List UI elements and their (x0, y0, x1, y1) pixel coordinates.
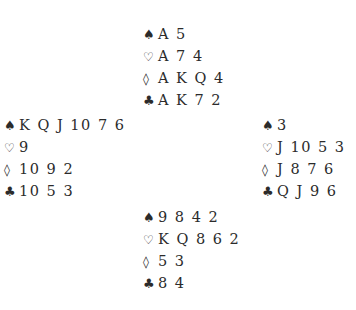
club-icon: ♣ (143, 273, 157, 295)
south-spades: ♠9 8 4 2 (143, 206, 240, 228)
north-clubs: ♣A K 7 2 (143, 89, 225, 111)
south-hearts-cards: K Q 8 6 2 (158, 231, 240, 247)
heart-icon: ♡ (4, 137, 18, 159)
east-hearts: ♡J 10 5 3 (262, 136, 346, 158)
heart-icon: ♡ (143, 229, 157, 251)
east-clubs-cards: Q J 9 6 (277, 183, 337, 199)
west-spades: ♠K Q J 10 7 6 (4, 114, 125, 136)
spade-icon: ♠ (4, 115, 18, 137)
east-spades: ♠3 (262, 114, 346, 136)
east-diamonds: ◊J 8 7 6 (262, 158, 346, 180)
diamond-icon: ◊ (4, 159, 18, 181)
diamond-icon: ◊ (143, 251, 157, 273)
south-diamonds: ◊5 3 (143, 250, 240, 272)
diamond-icon: ◊ (262, 159, 276, 181)
north-spades: ♠A 5 (143, 23, 225, 45)
heart-icon: ♡ (143, 46, 157, 68)
north-clubs-cards: A K 7 2 (158, 92, 222, 108)
west-hearts: ♡9 (4, 136, 125, 158)
west-diamonds-cards: 10 9 2 (19, 161, 74, 177)
south-hand: ♠9 8 4 2 ♡K Q 8 6 2 ◊5 3 ♣8 4 (143, 206, 240, 294)
north-hearts: ♡A 7 4 (143, 45, 225, 67)
east-clubs: ♣Q J 9 6 (262, 180, 346, 202)
south-spades-cards: 9 8 4 2 (158, 209, 219, 225)
spade-icon: ♠ (143, 207, 157, 229)
club-icon: ♣ (262, 181, 276, 203)
south-clubs-cards: 8 4 (158, 275, 186, 291)
west-spades-cards: K Q J 10 7 6 (19, 117, 125, 133)
south-hearts: ♡K Q 8 6 2 (143, 228, 240, 250)
west-hand: ♠K Q J 10 7 6 ♡9 ◊10 9 2 ♣10 5 3 (4, 114, 125, 202)
north-diamonds: ◊A K Q 4 (143, 67, 225, 89)
west-diamonds: ◊10 9 2 (4, 158, 125, 180)
north-diamonds-cards: A K Q 4 (158, 70, 225, 86)
spade-icon: ♠ (262, 115, 276, 137)
west-clubs-cards: 10 5 3 (19, 183, 74, 199)
west-clubs: ♣10 5 3 (4, 180, 125, 202)
spade-icon: ♠ (143, 24, 157, 46)
east-hearts-cards: J 10 5 3 (277, 139, 346, 155)
south-diamonds-cards: 5 3 (158, 253, 186, 269)
heart-icon: ♡ (262, 137, 276, 159)
north-hand: ♠A 5 ♡A 7 4 ◊A K Q 4 ♣A K 7 2 (143, 23, 225, 111)
south-clubs: ♣8 4 (143, 272, 240, 294)
club-icon: ♣ (4, 181, 18, 203)
east-diamonds-cards: J 8 7 6 (277, 161, 335, 177)
west-hearts-cards: 9 (19, 139, 30, 155)
east-spades-cards: 3 (277, 117, 288, 133)
club-icon: ♣ (143, 90, 157, 112)
north-spades-cards: A 5 (158, 26, 187, 42)
north-hearts-cards: A 7 4 (158, 48, 204, 64)
diamond-icon: ◊ (143, 68, 157, 90)
east-hand: ♠3 ♡J 10 5 3 ◊J 8 7 6 ♣Q J 9 6 (262, 114, 346, 202)
